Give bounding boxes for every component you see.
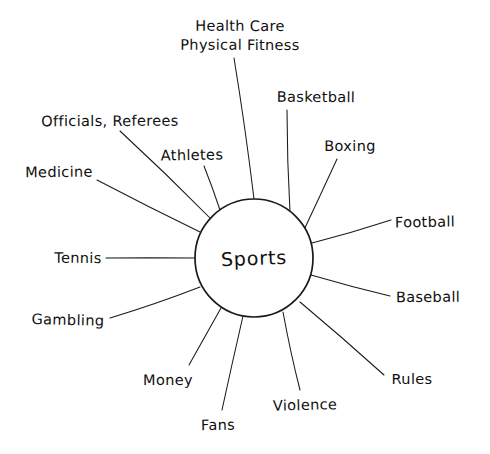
branch-label-tennis[interactable]: Tennis bbox=[54, 249, 102, 268]
spoke-line-boxing bbox=[303, 159, 337, 232]
branch-label-baseball[interactable]: Baseball bbox=[396, 288, 460, 307]
branch-label-health-care-physical-fitness-line2: Physical Fitness bbox=[180, 36, 299, 55]
branch-label-fans[interactable]: Fans bbox=[201, 416, 235, 435]
spoke-line-money bbox=[189, 308, 221, 365]
branch-label-officials-referees[interactable]: Officials, Referees bbox=[41, 112, 178, 131]
branch-label-football[interactable]: Football bbox=[395, 212, 456, 231]
branch-label-boxing[interactable]: Boxing bbox=[324, 137, 376, 155]
spoke-line-officials-referees bbox=[120, 131, 211, 219]
branch-label-violence[interactable]: Violence bbox=[273, 395, 338, 415]
spoke-line-violence bbox=[283, 312, 300, 390]
branch-label-health-care-physical-fitness-line1: Health Care bbox=[180, 17, 299, 36]
spoke-line-athletes bbox=[204, 166, 220, 210]
spoke-line-health-care-physical-fitness bbox=[234, 58, 254, 199]
mind-map-diagram: Sports Health CarePhysical FitnessBasket… bbox=[0, 0, 490, 454]
spoke-line-medicine bbox=[97, 180, 200, 232]
branch-label-gambling[interactable]: Gambling bbox=[31, 310, 104, 330]
hub-label: Sports bbox=[220, 246, 287, 271]
branch-label-medicine[interactable]: Medicine bbox=[25, 163, 93, 182]
spoke-line-rules bbox=[300, 302, 384, 375]
branch-label-money[interactable]: Money bbox=[143, 371, 193, 389]
branch-label-athletes[interactable]: Athletes bbox=[161, 145, 224, 164]
branch-label-basketball[interactable]: Basketball bbox=[277, 88, 356, 107]
branch-label-rules[interactable]: Rules bbox=[392, 370, 433, 388]
spoke-line-gambling bbox=[110, 287, 200, 318]
branch-label-health-care-physical-fitness[interactable]: Health CarePhysical Fitness bbox=[180, 17, 300, 56]
spoke-line-fans bbox=[222, 316, 243, 410]
spoke-line-baseball bbox=[311, 275, 390, 296]
spoke-line-basketball bbox=[287, 110, 290, 212]
spoke-line-football bbox=[312, 220, 391, 243]
